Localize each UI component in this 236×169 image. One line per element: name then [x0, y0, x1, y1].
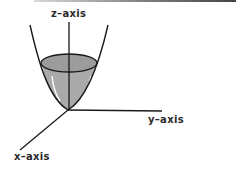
x-axis-line: [20, 110, 68, 150]
x-axis-label: x–axis: [14, 152, 50, 162]
paraboloid-diagram: [0, 0, 236, 169]
y-axis-label: y–axis: [148, 115, 184, 125]
y-axis-line: [68, 110, 162, 111]
z-axis-label: z–axis: [51, 9, 86, 19]
